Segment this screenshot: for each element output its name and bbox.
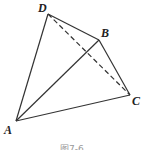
tetrahedron-diagram: D B C A 图7-6	[0, 0, 146, 150]
label-d: D	[37, 1, 47, 15]
label-c: C	[132, 94, 141, 108]
edge-dc-dashed	[48, 14, 130, 95]
label-a: A	[3, 123, 12, 137]
edge-bc	[99, 40, 130, 95]
edge-ac	[16, 95, 130, 121]
figure-caption: 图7-6	[60, 144, 84, 150]
label-b: B	[100, 26, 109, 40]
edge-db	[48, 14, 99, 40]
